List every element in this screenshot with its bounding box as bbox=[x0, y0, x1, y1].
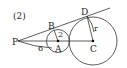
center-A-dot bbox=[57, 40, 60, 43]
center-C-dot bbox=[92, 40, 95, 43]
label-radius-2: 2 bbox=[58, 30, 63, 39]
geometry-diagram: (2) P B 2 A 6 D r C bbox=[0, 0, 127, 68]
label-r: r bbox=[94, 24, 98, 33]
label-B: B bbox=[48, 21, 55, 31]
label-6: 6 bbox=[38, 44, 43, 53]
label-A: A bbox=[54, 44, 62, 54]
label-P: P bbox=[12, 37, 18, 47]
label-C: C bbox=[90, 44, 97, 54]
label-D: D bbox=[81, 7, 88, 17]
problem-number: (2) bbox=[13, 11, 26, 21]
